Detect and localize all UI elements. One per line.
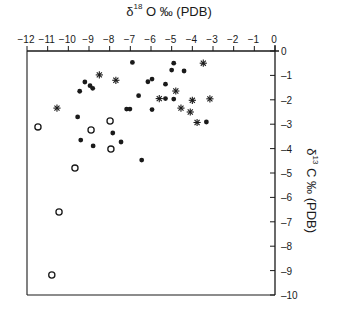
filled-circle-marker xyxy=(163,82,168,87)
filled-circle-marker xyxy=(169,68,174,73)
y-tick-label: –8 xyxy=(281,241,293,252)
x-tick-label: −3 xyxy=(206,34,218,45)
filled-circle-marker xyxy=(91,144,96,149)
x-tick-label: −9 xyxy=(82,34,94,45)
filled-circle-marker xyxy=(77,89,82,94)
x-tick-label: −11 xyxy=(39,34,56,45)
asterisk-marker xyxy=(156,95,163,102)
plot-area: −12−11−10−9−8−7−6−5−4−3−2−100–1–2–3–4–5–… xyxy=(0,0,338,311)
open-circle-marker xyxy=(35,124,41,130)
y-tick-label: –4 xyxy=(281,144,293,155)
filled-circle-marker xyxy=(119,140,124,145)
y-tick-label: –1 xyxy=(281,70,293,81)
filled-circle-marker xyxy=(171,97,176,102)
x-tick-label: −8 xyxy=(103,34,115,45)
open-circle-marker xyxy=(72,165,78,171)
filled-circle-marker xyxy=(139,158,144,163)
open-circle-marker xyxy=(107,118,113,124)
asterisk-marker xyxy=(193,119,200,126)
asterisk-marker xyxy=(96,71,103,78)
y-tick-label: –10 xyxy=(281,290,298,301)
open-circle-marker xyxy=(56,209,62,215)
x-tick-label: 0 xyxy=(271,34,277,45)
y-tick-label: –2 xyxy=(281,95,293,106)
open-circle-marker xyxy=(49,272,55,278)
scatter-chart: δ18 O ‰ (PDB) δ13 C ‰ (PDB) −12−11−10−9−… xyxy=(0,0,338,311)
x-tick-label: −6 xyxy=(144,34,156,45)
filled-circle-marker xyxy=(150,107,155,112)
filled-circle-marker xyxy=(182,69,187,74)
filled-circle-marker xyxy=(204,120,209,125)
x-tick-label: −10 xyxy=(59,34,76,45)
y-tick-label: –5 xyxy=(281,168,293,179)
asterisk-marker xyxy=(187,108,194,115)
asterisk-marker xyxy=(53,104,60,111)
filled-circle-marker xyxy=(171,61,176,66)
filled-circle-marker xyxy=(128,107,133,112)
filled-circle-marker xyxy=(75,114,80,119)
open-circle-marker xyxy=(108,146,114,152)
filled-circle-marker xyxy=(146,79,151,84)
filled-circle-marker xyxy=(130,60,135,65)
open-circle-marker xyxy=(88,127,94,133)
asterisk-marker xyxy=(189,97,196,104)
y-tick-label: –3 xyxy=(281,119,293,130)
filled-circle-marker xyxy=(136,93,141,98)
y-tick-label: –7 xyxy=(281,217,293,228)
x-tick-label: −12 xyxy=(18,34,35,45)
x-tick-label: −1 xyxy=(248,34,260,45)
filled-circle-marker xyxy=(82,80,87,85)
filled-circle-marker xyxy=(150,77,155,82)
y-tick-label: –9 xyxy=(281,266,293,277)
filled-circle-marker xyxy=(90,86,95,91)
asterisk-marker xyxy=(200,60,207,67)
filled-circle-marker xyxy=(110,131,115,136)
x-tick-label: −7 xyxy=(124,34,136,45)
asterisk-marker xyxy=(177,104,184,111)
asterisk-marker xyxy=(206,95,213,102)
filled-circle-marker xyxy=(78,138,83,143)
asterisk-marker xyxy=(172,87,179,94)
y-tick-label: 0 xyxy=(281,46,287,57)
x-tick-label: −4 xyxy=(186,34,198,45)
x-tick-label: −5 xyxy=(165,34,177,45)
filled-circle-marker xyxy=(163,96,168,101)
y-tick-label: –6 xyxy=(281,192,293,203)
asterisk-marker xyxy=(112,77,119,84)
x-tick-label: −2 xyxy=(227,34,239,45)
